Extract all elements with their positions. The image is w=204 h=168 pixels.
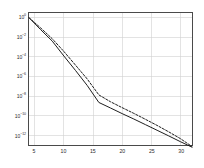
- x-tick-label: 30: [178, 149, 184, 154]
- x-tick-label: 20: [119, 149, 125, 154]
- plot-area: [28, 12, 193, 146]
- y-tick-label: 10−4: [17, 54, 26, 59]
- y-tick-label: 10−6: [17, 74, 26, 79]
- figure-canvas: 10010−210−410−610−810−1010−12 5101520253…: [0, 0, 204, 168]
- x-tick-label: 15: [90, 149, 96, 154]
- y-tick-label: 10−8: [17, 94, 26, 99]
- y-tick-label: 100: [19, 14, 26, 19]
- y-tick-label: 10−10: [15, 114, 26, 119]
- y-tick-label: 10−2: [17, 34, 26, 39]
- x-tick-label: 10: [61, 149, 67, 154]
- x-tick-label: 25: [149, 149, 155, 154]
- x-tick-label: 5: [32, 149, 35, 154]
- y-tick-label: 10−12: [15, 134, 26, 139]
- data-curves: [29, 13, 192, 145]
